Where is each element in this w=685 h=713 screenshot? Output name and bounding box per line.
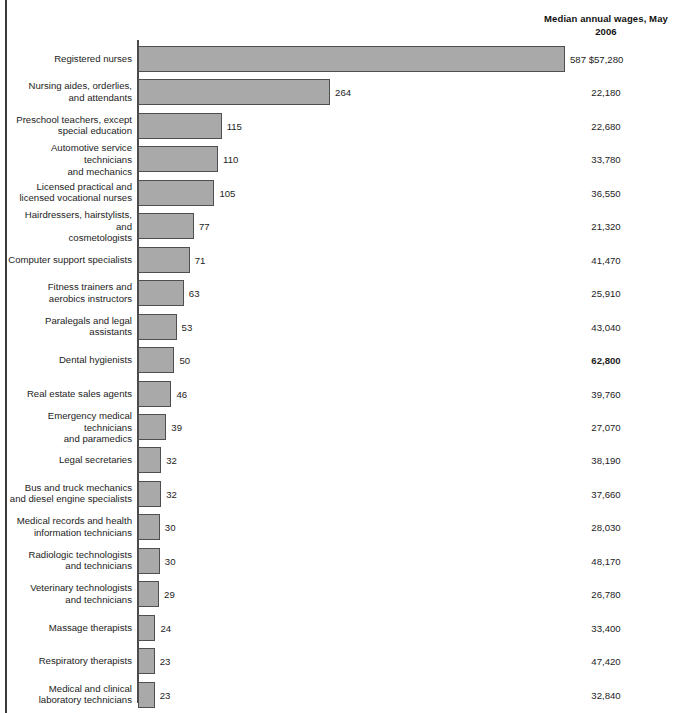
chart-row: Veterinary technologists and technicians… xyxy=(0,581,685,607)
chart-row: Dental hygienists5062,800 xyxy=(0,347,685,373)
bar xyxy=(138,481,161,507)
median-wage-value: 33,780 xyxy=(541,154,671,165)
bar-value-label: 23 xyxy=(160,689,171,700)
chart-row: Medical records and health information t… xyxy=(0,514,685,540)
bar-value-label: 24 xyxy=(160,622,171,633)
chart-row: Computer support specialists7141,470 xyxy=(0,247,685,273)
category-label: Fitness trainers and aerobics instructor… xyxy=(8,282,132,305)
bar xyxy=(138,447,161,473)
category-label: Medical and clinical laboratory technici… xyxy=(8,683,132,706)
bar-value-label: 32 xyxy=(166,488,177,499)
median-wage-value: 21,320 xyxy=(541,221,671,232)
median-wage-value: 48,170 xyxy=(541,555,671,566)
category-label: Radiologic technologists and technicians xyxy=(8,549,132,572)
bar xyxy=(138,46,565,72)
median-wage-value: 39,760 xyxy=(541,388,671,399)
category-label: Respiratory therapists xyxy=(8,655,132,667)
category-label: Dental hygienists xyxy=(8,354,132,366)
category-label: Real estate sales agents xyxy=(8,388,132,400)
bar xyxy=(138,615,155,641)
median-wage-value: 22,180 xyxy=(541,87,671,98)
bar xyxy=(138,280,184,306)
chart-row: Licensed practical and licensed vocation… xyxy=(0,180,685,206)
chart-row: Bus and truck mechanics and diesel engin… xyxy=(0,481,685,507)
median-wage-value: 41,470 xyxy=(541,254,671,265)
median-wage-value: $57,280 xyxy=(541,54,671,65)
category-label: Hairdressers, hairstylists, and cosmetol… xyxy=(8,209,132,244)
chart-row: Massage therapists2433,400 xyxy=(0,615,685,641)
category-label: Nursing aides, orderlies, and attendants xyxy=(8,81,132,104)
category-label: Emergency medical technicians and parame… xyxy=(8,410,132,445)
bar xyxy=(138,314,177,340)
median-wage-value: 25,910 xyxy=(541,288,671,299)
bar xyxy=(138,581,159,607)
bar-chart: Registered nurses587$57,280Nursing aides… xyxy=(0,0,685,713)
category-label: Paralegals and legal assistants xyxy=(8,315,132,338)
bar-value-label: 110 xyxy=(223,154,238,165)
bar xyxy=(138,113,222,139)
chart-row: Medical and clinical laboratory technici… xyxy=(0,682,685,708)
median-wage-value: 28,030 xyxy=(541,522,671,533)
median-wage-value: 22,680 xyxy=(541,120,671,131)
median-wage-value: 27,070 xyxy=(541,421,671,432)
bar xyxy=(138,247,190,273)
chart-row: Respiratory therapists2347,420 xyxy=(0,648,685,674)
median-wage-value: 32,840 xyxy=(541,689,671,700)
bar xyxy=(138,213,194,239)
median-wage-value: 62,800 xyxy=(541,355,671,366)
category-label: Medical records and health information t… xyxy=(8,516,132,539)
bar-value-label: 71 xyxy=(195,254,206,265)
bar-value-label: 115 xyxy=(227,120,242,131)
median-wage-value: 37,660 xyxy=(541,488,671,499)
bar xyxy=(138,548,160,574)
bar-value-label: 29 xyxy=(164,589,175,600)
bar-value-label: 30 xyxy=(165,522,176,533)
chart-row: Radiologic technologists and technicians… xyxy=(0,548,685,574)
bar xyxy=(138,146,218,172)
chart-row: Fitness trainers and aerobics instructor… xyxy=(0,280,685,306)
bar xyxy=(138,514,160,540)
category-label: Veterinary technologists and technicians xyxy=(8,583,132,606)
category-label: Licensed practical and licensed vocation… xyxy=(8,181,132,204)
bar-value-label: 63 xyxy=(189,288,200,299)
bar-value-label: 264 xyxy=(335,87,351,98)
chart-row: Registered nurses587$57,280 xyxy=(0,46,685,72)
bar-value-label: 105 xyxy=(219,187,235,198)
bar xyxy=(138,180,214,206)
bar xyxy=(138,414,166,440)
bar-value-label: 23 xyxy=(160,656,171,667)
chart-row: Hairdressers, hairstylists, and cosmetol… xyxy=(0,213,685,239)
category-label: Computer support specialists xyxy=(8,254,132,266)
chart-row: Nursing aides, orderlies, and attendants… xyxy=(0,79,685,105)
chart-row: Legal secretaries3238,190 xyxy=(0,447,685,473)
chart-row: Automotive service technicians and mecha… xyxy=(0,146,685,172)
category-label: Registered nurses xyxy=(8,53,132,65)
category-label: Massage therapists xyxy=(8,622,132,634)
bar xyxy=(138,648,155,674)
median-wage-value: 33,400 xyxy=(541,622,671,633)
category-label: Preschool teachers, except special educa… xyxy=(8,114,132,137)
category-label: Legal secretaries xyxy=(8,455,132,467)
bar-value-label: 50 xyxy=(179,355,190,366)
category-label: Automotive service technicians and mecha… xyxy=(8,142,132,177)
category-label: Bus and truck mechanics and diesel engin… xyxy=(8,482,132,505)
bar-value-label: 39 xyxy=(171,421,182,432)
chart-row: Preschool teachers, except special educa… xyxy=(0,113,685,139)
chart-row: Emergency medical technicians and parame… xyxy=(0,414,685,440)
bar-value-label: 53 xyxy=(182,321,193,332)
bar xyxy=(138,79,330,105)
median-wage-value: 43,040 xyxy=(541,321,671,332)
median-wage-value: 26,780 xyxy=(541,589,671,600)
bar-value-label: 77 xyxy=(199,221,210,232)
bar xyxy=(138,347,174,373)
bar-value-label: 32 xyxy=(166,455,177,466)
median-wage-value: 47,420 xyxy=(541,656,671,667)
bar xyxy=(138,682,155,708)
bar-value-label: 30 xyxy=(165,555,176,566)
chart-row: Paralegals and legal assistants5343,040 xyxy=(0,314,685,340)
median-wage-value: 38,190 xyxy=(541,455,671,466)
bar-value-label: 46 xyxy=(176,388,187,399)
bar xyxy=(138,381,171,407)
median-wage-value: 36,550 xyxy=(541,187,671,198)
chart-row: Real estate sales agents4639,760 xyxy=(0,381,685,407)
